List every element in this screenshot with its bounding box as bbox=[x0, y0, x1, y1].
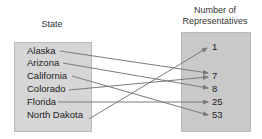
arrow-colorado-to-7 bbox=[69, 77, 208, 90]
arrow-north-dakota-to-1 bbox=[89, 48, 207, 119]
arrow-california-to-53 bbox=[72, 76, 208, 115]
mapping-arrows bbox=[0, 0, 262, 139]
arrow-alaska-to-7 bbox=[60, 51, 208, 73]
